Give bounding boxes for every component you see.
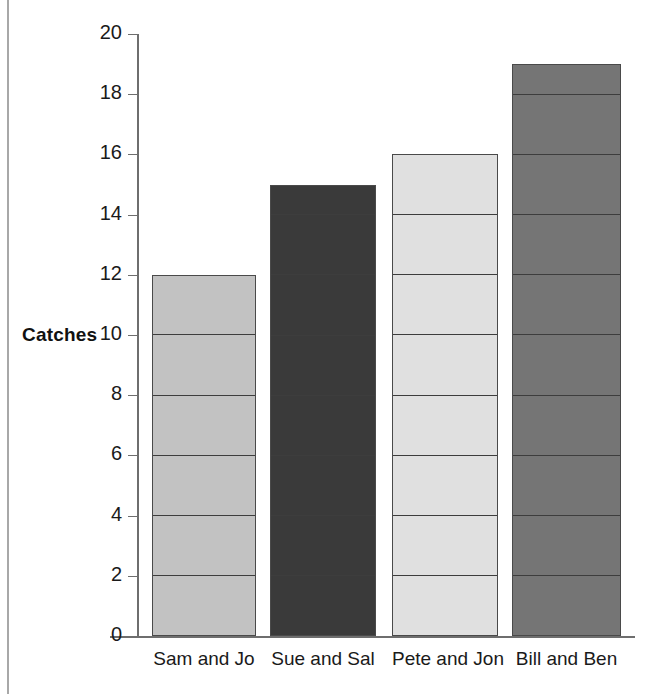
bar-gridline-14 [271, 214, 375, 215]
y-axis-tick-label-text: 18 [100, 81, 122, 104]
bar-gridline-4 [271, 515, 375, 516]
y-axis-tick-label-text: 2 [111, 563, 122, 586]
bar-gridline-8 [393, 395, 497, 396]
bar-gridline-10 [153, 334, 255, 335]
y-axis-tick-8 [128, 395, 137, 396]
y-axis-tick-label-text: 10 [100, 322, 122, 345]
y-axis-tick-6 [128, 455, 137, 456]
bar-gridline-4 [153, 515, 255, 516]
y-axis-tick-20 [128, 34, 137, 35]
bar-gridline-4 [393, 515, 497, 516]
bar-gridline-4 [513, 515, 620, 516]
bar-gridline-2 [271, 575, 375, 576]
x-axis-label-pete-and-jon: Pete and Jon [392, 648, 498, 670]
bar-gridline-10 [271, 335, 375, 336]
y-axis-tick-4 [128, 516, 137, 517]
bar-gridline-10 [513, 334, 620, 335]
bar-gridline-12 [513, 274, 620, 275]
y-axis-title: Catches [22, 324, 97, 346]
bar-sue-and-sal[interactable] [270, 185, 376, 637]
y-axis-tick-12 [128, 275, 137, 276]
y-axis-tick-label-text: 16 [100, 141, 122, 164]
bar-gridline-14 [513, 214, 620, 215]
y-axis-tick-label-text: 14 [100, 202, 122, 225]
y-axis-tick-16 [128, 154, 137, 155]
bar-gridline-14 [393, 214, 497, 215]
x-axis-label-sue-and-sal: Sue and Sal [270, 648, 376, 670]
bar-bill-and-ben[interactable] [512, 64, 621, 636]
bar-gridline-6 [513, 455, 620, 456]
y-axis-tick-label-text: 8 [111, 382, 122, 405]
bar-gridline-2 [513, 575, 620, 576]
bar-chart-plot: 20181614121086420 Catches Sam and JoSue … [0, 0, 647, 694]
y-axis-tick-label-text: 6 [111, 442, 122, 465]
y-axis-tick-label-text: 0 [111, 623, 122, 646]
bar-gridline-6 [393, 455, 497, 456]
chart-page: 20181614121086420 Catches Sam and JoSue … [0, 0, 647, 694]
x-axis-label-bill-and-ben: Bill and Ben [512, 648, 621, 670]
bar-gridline-8 [153, 395, 255, 396]
bar-gridline-10 [393, 334, 497, 335]
bar-gridline-16 [513, 154, 620, 155]
y-axis-tick-label-text: 20 [100, 21, 122, 44]
y-axis-tick-0 [128, 636, 137, 637]
bar-gridline-2 [393, 575, 497, 576]
y-axis-tick-label-text: 12 [100, 262, 122, 285]
bar-gridline-6 [271, 455, 375, 456]
bar-gridline-12 [271, 274, 375, 275]
bar-gridline-18 [513, 94, 620, 95]
bar-gridline-8 [271, 395, 375, 396]
bar-pete-and-jon[interactable] [392, 154, 498, 636]
y-axis-tick-10 [128, 335, 137, 336]
y-axis-tick-2 [128, 576, 137, 577]
y-axis-tick-14 [128, 215, 137, 216]
bar-gridline-2 [153, 575, 255, 576]
y-axis-line [137, 34, 139, 637]
bar-gridline-8 [513, 395, 620, 396]
y-axis-tick-label-text: 4 [111, 503, 122, 526]
x-axis-line [110, 636, 635, 638]
bar-gridline-6 [153, 455, 255, 456]
x-axis-label-sam-and-jo: Sam and Jo [152, 648, 256, 670]
y-axis-tick-18 [128, 94, 137, 95]
bar-sam-and-jo[interactable] [152, 275, 256, 636]
bar-gridline-12 [393, 274, 497, 275]
